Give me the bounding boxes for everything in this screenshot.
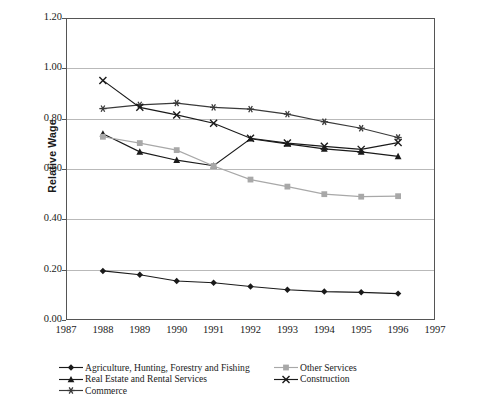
series-line xyxy=(100,134,401,200)
data-point-square xyxy=(211,163,217,169)
data-point-square xyxy=(321,191,327,197)
legend-item-label: Commerce xyxy=(84,385,127,396)
y-axis-tick-label: 1.00 xyxy=(22,62,62,72)
y-axis-tick-mark xyxy=(62,320,66,321)
y-axis-tick-label: 0.20 xyxy=(22,264,62,274)
legend-marker-diamond xyxy=(58,362,84,373)
series-line xyxy=(100,268,402,297)
data-point-triangle xyxy=(136,148,143,154)
y-axis-tick-label: 0.60 xyxy=(22,163,62,173)
y-axis-tick-label: 0.80 xyxy=(22,113,62,123)
data-point-square xyxy=(283,365,289,371)
legend-item-label: Agriculture, Hunting, Forestry and Fishi… xyxy=(84,362,250,373)
legend-item: Construction xyxy=(273,373,357,384)
data-point-square xyxy=(248,177,254,183)
data-point-diamond xyxy=(395,290,401,296)
data-point-cross-x xyxy=(99,77,106,84)
data-point-diamond xyxy=(358,289,364,295)
y-axis-tick-labels: 0.000.200.400.600.801.001.20 xyxy=(18,18,62,320)
data-point-diamond xyxy=(321,288,327,294)
data-point-asterisk xyxy=(284,111,291,117)
series-line xyxy=(99,100,401,141)
data-point-asterisk xyxy=(99,105,106,111)
legend-item-label: Real Estate and Rental Services xyxy=(84,373,207,384)
data-point-diamond xyxy=(174,278,180,284)
data-point-square xyxy=(285,184,291,190)
data-point-square xyxy=(137,140,143,146)
legend-item: Commerce xyxy=(58,385,250,396)
legend-marker-square xyxy=(273,362,299,373)
legend-item-label: Construction xyxy=(299,373,350,384)
y-axis-tick-mark xyxy=(62,219,66,220)
data-point-asterisk xyxy=(210,104,217,110)
data-point-diamond xyxy=(68,364,74,370)
data-point-diamond xyxy=(247,283,253,289)
data-point-asterisk xyxy=(358,125,365,131)
legend-item-label: Other Services xyxy=(299,362,357,373)
chart-plot-lines xyxy=(66,18,435,320)
legend-marker-asterisk xyxy=(58,385,84,396)
data-point-diamond xyxy=(137,272,143,278)
y-axis-tick-mark xyxy=(62,119,66,120)
data-point-diamond xyxy=(210,280,216,286)
y-axis-tick-mark xyxy=(62,18,66,19)
data-point-square xyxy=(395,193,401,199)
data-point-square xyxy=(100,134,106,140)
legend-column-left: Agriculture, Hunting, Forestry and Fishi… xyxy=(58,362,250,396)
y-axis-tick-label: 0.00 xyxy=(22,314,62,324)
y-axis-tick-mark xyxy=(62,68,66,69)
legend-column-right: Other ServicesConstruction xyxy=(273,362,357,385)
data-point-asterisk xyxy=(173,100,180,106)
data-point-square xyxy=(358,194,364,200)
legend-item: Real Estate and Rental Services xyxy=(58,373,250,384)
y-axis-tick-mark xyxy=(62,270,66,271)
legend-item: Other Services xyxy=(273,362,357,373)
data-point-asterisk xyxy=(247,106,254,112)
y-axis-tick-label: 1.20 xyxy=(22,12,62,22)
x-axis-tick-label: 1997 xyxy=(413,324,457,335)
data-point-diamond xyxy=(100,268,106,274)
legend-marker-triangle xyxy=(58,374,84,385)
legend-marker-cross-x xyxy=(273,374,299,385)
data-point-diamond xyxy=(284,287,290,293)
y-axis-tick-label: 0.40 xyxy=(22,213,62,223)
data-point-asterisk xyxy=(321,119,328,125)
chart-legend: Agriculture, Hunting, Forestry and Fishi… xyxy=(58,362,458,396)
chart-container: Relative Wage 0.000.200.400.600.801.001.… xyxy=(0,0,487,398)
legend-item: Agriculture, Hunting, Forestry and Fishi… xyxy=(58,362,250,373)
y-axis-tick-mark xyxy=(62,169,66,170)
data-point-asterisk xyxy=(67,387,74,393)
data-point-square xyxy=(174,147,180,153)
